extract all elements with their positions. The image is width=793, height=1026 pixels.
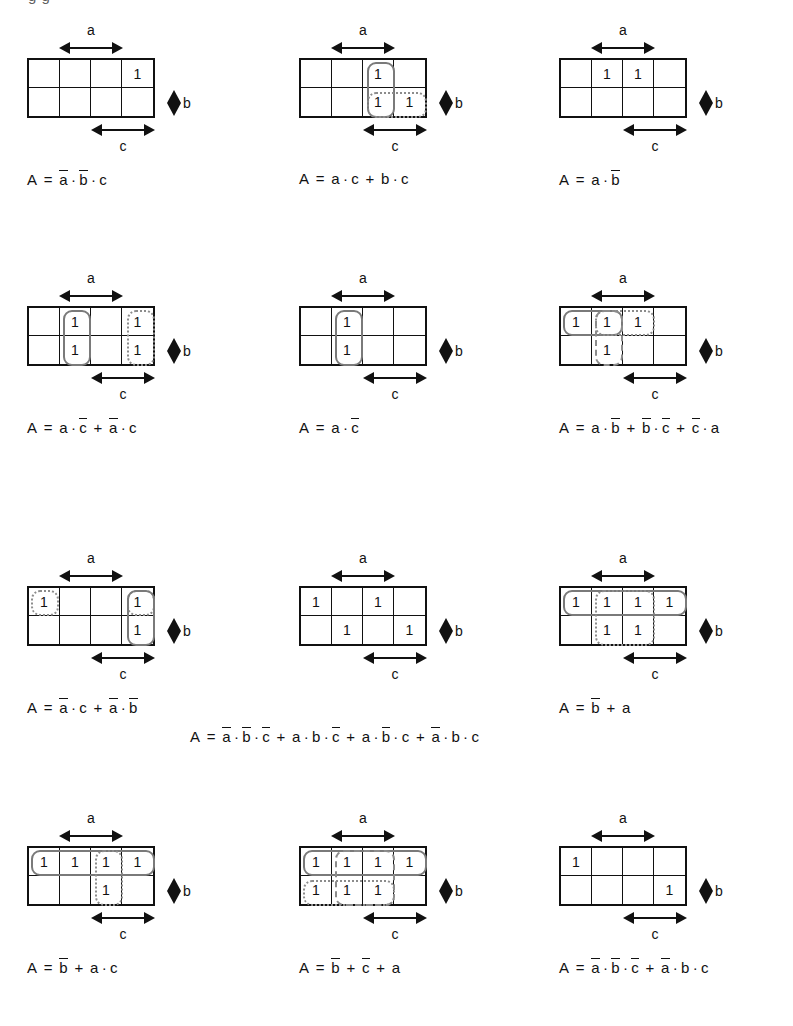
kmap-cell-r2c1[interactable] bbox=[301, 336, 332, 364]
kmap-cell-r2c3[interactable]: 1 bbox=[363, 88, 394, 116]
kmap-cell-r2c3[interactable] bbox=[91, 616, 122, 644]
kmap-cell-r2c2[interactable]: 1 bbox=[332, 876, 363, 904]
kmap-cell-r1c2[interactable] bbox=[60, 588, 91, 616]
kmap-cell-r1c2[interactable] bbox=[60, 60, 91, 88]
kmap-cell-r1c4[interactable]: 1 bbox=[122, 308, 153, 336]
kmap-cell-r1c2[interactable] bbox=[332, 588, 363, 616]
kmap-cell-r2c4[interactable] bbox=[654, 336, 685, 364]
kmap-cell-r2c4[interactable] bbox=[654, 88, 685, 116]
kmap-cell-r1c4[interactable]: 1 bbox=[122, 848, 153, 876]
kmap-cell-r1c1[interactable]: 1 bbox=[561, 848, 592, 876]
kmap-cell-r2c1[interactable] bbox=[29, 876, 60, 904]
kmap-cell-r2c3[interactable]: 1 bbox=[363, 876, 394, 904]
kmap-cell-r2c1[interactable] bbox=[561, 616, 592, 644]
kmap-cell-r2c3[interactable] bbox=[363, 336, 394, 364]
kmap-cell-r1c3[interactable]: 1 bbox=[363, 588, 394, 616]
variable: A bbox=[27, 959, 37, 976]
kmap-cell-r1c1[interactable] bbox=[29, 308, 60, 336]
kmap-cell-r1c4[interactable] bbox=[654, 848, 685, 876]
kmap-cell-r2c3[interactable]: 1 bbox=[91, 876, 122, 904]
variable: a bbox=[59, 419, 68, 436]
equation-operator: · bbox=[88, 171, 99, 188]
kmap-cell-r1c1[interactable] bbox=[301, 60, 332, 88]
kmap-cell-r2c1[interactable]: 1 bbox=[301, 876, 332, 904]
kmap-cell-r2c1[interactable] bbox=[301, 88, 332, 116]
kmap-cell-r2c1[interactable] bbox=[561, 88, 592, 116]
kmap-cell-r1c2[interactable]: 1 bbox=[592, 60, 623, 88]
kmap-cell-r1c1[interactable] bbox=[29, 60, 60, 88]
kmap-cell-r1c1[interactable]: 1 bbox=[301, 588, 332, 616]
kmap-cell-r2c4[interactable] bbox=[394, 876, 425, 904]
kmap-cell-r1c3[interactable]: 1 bbox=[623, 60, 654, 88]
kmap-cell-r2c1[interactable] bbox=[29, 88, 60, 116]
kmap-cell-r1c2[interactable] bbox=[592, 848, 623, 876]
kmap-cell-r1c3[interactable] bbox=[91, 308, 122, 336]
kmap-cell-r1c4[interactable] bbox=[394, 588, 425, 616]
kmap-cell-r1c4[interactable]: 1 bbox=[394, 848, 425, 876]
kmap-cell-r2c2[interactable] bbox=[60, 876, 91, 904]
kmap-cell-r2c4[interactable] bbox=[122, 88, 153, 116]
kmap-cell-r1c3[interactable] bbox=[623, 848, 654, 876]
kmap-cell-r1c3[interactable]: 1 bbox=[623, 308, 654, 336]
kmap-cell-r2c4[interactable]: 1 bbox=[122, 616, 153, 644]
kmap-cell-r2c3[interactable] bbox=[363, 616, 394, 644]
kmap-cell-r2c2[interactable]: 1 bbox=[592, 336, 623, 364]
kmap-cell-r1c1[interactable]: 1 bbox=[29, 588, 60, 616]
kmap-cell-r1c3[interactable] bbox=[91, 588, 122, 616]
kmap-cell-r2c2[interactable]: 1 bbox=[332, 616, 363, 644]
kmap-cell-r2c4[interactable]: 1 bbox=[122, 336, 153, 364]
kmap-cell-r1c1[interactable]: 1 bbox=[301, 848, 332, 876]
kmap-cell-r2c1[interactable] bbox=[561, 876, 592, 904]
kmap-cell-r1c3[interactable]: 1 bbox=[623, 588, 654, 616]
kmap-cell-r2c3[interactable]: 1 bbox=[623, 616, 654, 644]
equation-operator: = bbox=[309, 959, 331, 976]
kmap-cell-r1c3[interactable]: 1 bbox=[363, 848, 394, 876]
kmap-cell-r1c3[interactable] bbox=[91, 60, 122, 88]
kmap-cell-r1c2[interactable]: 1 bbox=[332, 308, 363, 336]
kmap-cell-r1c2[interactable]: 1 bbox=[592, 588, 623, 616]
kmap-cell-r2c2[interactable] bbox=[592, 88, 623, 116]
kmap-cell-r2c2[interactable]: 1 bbox=[60, 336, 91, 364]
kmap-cell-r2c2[interactable] bbox=[332, 88, 363, 116]
kmap-cell-r1c2[interactable]: 1 bbox=[60, 848, 91, 876]
kmap-cell-r1c3[interactable]: 1 bbox=[91, 848, 122, 876]
kmap-cell-r1c1[interactable] bbox=[561, 60, 592, 88]
kmap-cell-r2c3[interactable] bbox=[623, 876, 654, 904]
kmap-cell-r1c1[interactable]: 1 bbox=[561, 308, 592, 336]
kmap-cell-r2c2[interactable]: 1 bbox=[592, 616, 623, 644]
kmap-cell-r2c4[interactable]: 1 bbox=[394, 616, 425, 644]
kmap-cell-r2c2[interactable] bbox=[60, 88, 91, 116]
kmap-cell-r1c4[interactable] bbox=[394, 308, 425, 336]
kmap-cell-r2c2[interactable] bbox=[60, 616, 91, 644]
kmap-cell-r1c4[interactable]: 1 bbox=[122, 60, 153, 88]
kmap-cell-r2c1[interactable] bbox=[29, 336, 60, 364]
kmap-cell-r2c3[interactable] bbox=[623, 88, 654, 116]
kmap-cell-r1c1[interactable]: 1 bbox=[561, 588, 592, 616]
kmap-cell-r1c4[interactable]: 1 bbox=[122, 588, 153, 616]
kmap-cell-r1c2[interactable]: 1 bbox=[332, 848, 363, 876]
kmap-cell-r1c1[interactable] bbox=[301, 308, 332, 336]
kmap-cell-r1c3[interactable] bbox=[363, 308, 394, 336]
kmap-cell-r1c3[interactable]: 1 bbox=[363, 60, 394, 88]
kmap-cell-r1c4[interactable]: 1 bbox=[654, 588, 685, 616]
kmap-cell-r1c4[interactable] bbox=[394, 60, 425, 88]
kmap-cell-r1c4[interactable] bbox=[654, 308, 685, 336]
kmap-cell-r1c2[interactable]: 1 bbox=[592, 308, 623, 336]
kmap-cell-r2c3[interactable] bbox=[623, 336, 654, 364]
kmap-cell-r2c4[interactable]: 1 bbox=[394, 88, 425, 116]
kmap-cell-r2c3[interactable] bbox=[91, 88, 122, 116]
kmap-cell-r2c3[interactable] bbox=[91, 336, 122, 364]
kmap-cell-r2c4[interactable] bbox=[122, 876, 153, 904]
kmap-cell-r2c1[interactable] bbox=[561, 336, 592, 364]
kmap-cell-r2c1[interactable] bbox=[29, 616, 60, 644]
kmap-cell-r2c4[interactable] bbox=[654, 616, 685, 644]
kmap-cell-r2c4[interactable] bbox=[394, 336, 425, 364]
kmap-cell-r2c1[interactable] bbox=[301, 616, 332, 644]
kmap-cell-r1c2[interactable]: 1 bbox=[60, 308, 91, 336]
kmap-cell-r2c4[interactable]: 1 bbox=[654, 876, 685, 904]
kmap-cell-r1c1[interactable]: 1 bbox=[29, 848, 60, 876]
kmap-cell-r1c2[interactable] bbox=[332, 60, 363, 88]
kmap-cell-r2c2[interactable]: 1 bbox=[332, 336, 363, 364]
kmap-cell-r2c2[interactable] bbox=[592, 876, 623, 904]
kmap-cell-r1c4[interactable] bbox=[654, 60, 685, 88]
